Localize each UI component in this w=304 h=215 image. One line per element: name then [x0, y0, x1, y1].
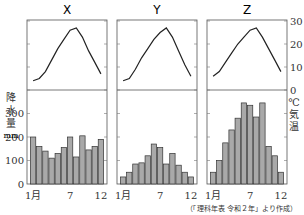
- left-axis-tick: 0: [18, 179, 24, 190]
- temperature-line: [33, 28, 101, 81]
- x-tick-label: 1月: [205, 190, 221, 201]
- precip-bar: [229, 130, 234, 184]
- precip-bar: [74, 157, 79, 184]
- right-axis-label: ℃: [288, 97, 299, 108]
- precip-bar: [98, 139, 103, 184]
- precip-bar: [145, 156, 150, 184]
- x-tick-label: 1月: [25, 190, 41, 201]
- precip-bar: [133, 164, 138, 184]
- right-axis-tick: 30: [290, 16, 303, 27]
- source-note: （「理科年表 令和２年」より作成）: [186, 203, 297, 213]
- right-axis-label: 温: [289, 121, 299, 132]
- panel-y: Y1月712: [115, 3, 197, 201]
- precip-bar: [157, 148, 162, 184]
- precip-bar: [120, 177, 125, 184]
- panel-title: Z: [243, 3, 251, 17]
- right-axis-tick: 20: [290, 39, 303, 50]
- precip-bar: [151, 144, 156, 184]
- x-tick-label: 7: [247, 190, 253, 201]
- x-tick-label: 7: [67, 190, 73, 201]
- panel-x: X1月712: [25, 3, 107, 201]
- right-axis-tick: 10: [290, 62, 303, 73]
- left-axis-label: 量: [6, 118, 16, 129]
- precip-bar: [49, 158, 54, 184]
- x-tick-label: 12: [185, 190, 198, 201]
- precip-bar: [80, 136, 85, 184]
- precip-bar: [254, 117, 259, 184]
- precip-bar: [30, 137, 35, 184]
- precip-bar: [43, 151, 48, 184]
- left-axis-label: 降: [6, 91, 16, 103]
- precip-bar: [92, 146, 97, 184]
- left-axis-tick: 100: [5, 155, 24, 166]
- left-axis-unit: mm: [3, 131, 19, 140]
- precip-bar: [266, 146, 271, 184]
- precip-bar: [164, 164, 169, 184]
- precip-bar: [188, 177, 193, 184]
- precip-bar: [127, 172, 132, 184]
- precip-bar: [210, 172, 215, 184]
- temperature-line: [123, 28, 191, 81]
- panel-z: Z1月712: [205, 3, 287, 201]
- x-tick-label: 12: [275, 190, 288, 201]
- left-axis-label: 水: [6, 105, 16, 116]
- precip-bar: [86, 150, 91, 184]
- panel-frame: [117, 20, 197, 184]
- panel-title: X: [63, 3, 71, 17]
- precip-bar: [176, 165, 181, 184]
- precip-bar: [55, 153, 60, 184]
- precip-bar: [278, 172, 283, 184]
- precip-bar: [37, 146, 42, 184]
- precip-bar: [223, 143, 228, 184]
- precip-bar: [241, 103, 246, 184]
- x-tick-label: 12: [95, 190, 108, 201]
- right-axis-label: 気: [289, 108, 299, 120]
- precip-bar: [170, 153, 175, 184]
- precip-bar: [61, 148, 66, 184]
- panel-title: Y: [152, 3, 161, 17]
- x-tick-label: 1月: [115, 190, 131, 201]
- right-axis-tick: 0: [290, 85, 296, 96]
- precip-bar: [217, 161, 222, 185]
- precip-bar: [67, 137, 72, 184]
- x-tick-label: 7: [157, 190, 163, 201]
- precip-bar: [182, 172, 187, 184]
- precip-bar: [272, 156, 277, 184]
- precip-bar: [260, 103, 265, 184]
- precip-bar: [139, 163, 144, 184]
- temperature-line: [213, 28, 281, 76]
- climograph-chart: X1月712Y1月712Z1月7120100200300降水量mm0102030…: [0, 0, 304, 215]
- precip-bar: [235, 118, 240, 184]
- precip-bar: [247, 105, 252, 184]
